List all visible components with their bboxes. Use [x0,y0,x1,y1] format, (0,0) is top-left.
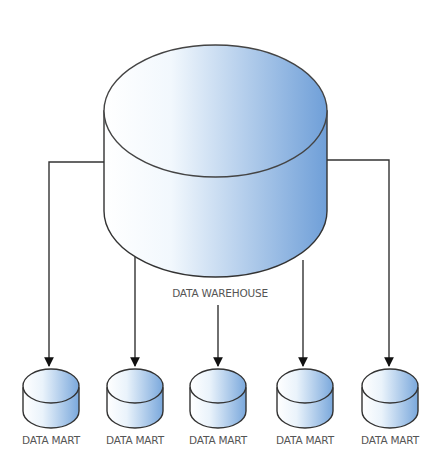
data-mart-label: DATA MART [189,434,247,446]
data-warehouse-cylinder-icon [104,45,327,277]
data-mart-cylinder-icon [277,369,333,428]
data-warehouse-label: DATA WAREHOUSE [172,287,268,299]
data-mart-label: DATA MART [22,434,80,446]
connector-mart-1 [49,162,104,366]
data-mart-cylinder-icon [362,369,418,428]
diagram-canvas [0,0,444,471]
data-marts [23,369,418,428]
data-mart-cylinder-icon [190,369,246,428]
data-mart-cylinder-icon [23,369,79,428]
data-mart-cylinder-icon [107,369,163,428]
data-mart-label: DATA MART [361,434,419,446]
data-mart-label: DATA MART [106,434,164,446]
connector-mart-5 [327,160,389,366]
data-mart-label: DATA MART [276,434,334,446]
